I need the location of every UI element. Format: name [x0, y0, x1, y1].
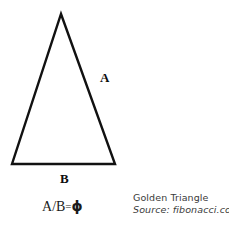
formula-phi-symbol: ϕ [72, 198, 83, 214]
golden-triangle-figure: A B A/B=ϕ Golden Triangle Source: fibona… [0, 0, 229, 225]
formula-numerator: A [42, 199, 52, 214]
triangle-outline [12, 14, 115, 164]
caption-title: Golden Triangle [133, 192, 229, 204]
side-label-a: A [100, 71, 109, 84]
ratio-formula: A/B=ϕ [42, 199, 83, 214]
caption-block: Golden Triangle Source: fibonacci.com [133, 192, 229, 215]
formula-denominator: B [56, 199, 65, 214]
side-label-b: B [60, 172, 69, 185]
caption-source: Source: fibonacci.com [133, 204, 229, 216]
